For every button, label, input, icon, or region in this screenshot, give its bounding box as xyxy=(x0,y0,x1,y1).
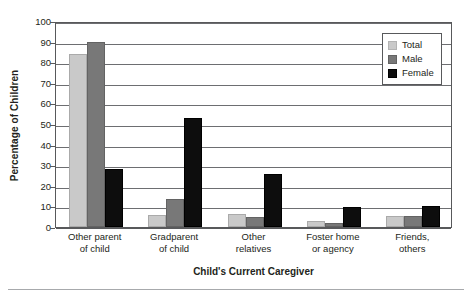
x-tick-label-line: Other parent xyxy=(68,231,121,242)
x-tick-label-line: of child xyxy=(134,243,213,255)
x-tick-label-line: or agency xyxy=(293,243,372,255)
y-tick-label-50: 50 xyxy=(24,120,51,130)
bar xyxy=(264,174,282,227)
y-tick-label-30: 30 xyxy=(24,161,51,171)
legend-item-male[interactable]: Male xyxy=(388,52,434,66)
x-tick-label-line: Foster home xyxy=(306,231,359,242)
legend-swatch-icon xyxy=(388,69,397,78)
x-tick-label-line: Friends, xyxy=(395,231,429,242)
bar xyxy=(166,199,184,227)
y-tick-label-0: 0 xyxy=(24,223,51,233)
bar xyxy=(343,207,361,227)
x-axis-title: Child's Current Caregiver xyxy=(55,266,452,277)
bar xyxy=(105,169,123,227)
x-tick-label: Gradparentof child xyxy=(134,231,213,254)
legend-item-female[interactable]: Female xyxy=(388,66,434,80)
x-tick-label-line: relatives xyxy=(214,243,293,255)
gridline-0 xyxy=(56,228,451,229)
bar xyxy=(386,216,404,227)
legend-label: Total xyxy=(402,40,422,50)
x-tick-label: Friends,others xyxy=(373,231,452,254)
x-tick-label-line: Gradparent xyxy=(150,231,198,242)
bar xyxy=(228,214,246,227)
bar xyxy=(87,42,105,227)
y-tick-label-20: 20 xyxy=(24,182,51,192)
x-tick-label-line: others xyxy=(373,243,452,255)
bar xyxy=(148,215,166,227)
x-tick-label: Foster homeor agency xyxy=(293,231,372,254)
y-tick-label-70: 70 xyxy=(24,79,51,89)
legend-swatch-icon xyxy=(388,41,397,50)
y-axis-title-text: Percentage of Children xyxy=(10,69,21,181)
x-axis-tick-labels: Other parentof childGradparentof childOt… xyxy=(55,231,452,263)
bar xyxy=(246,217,264,227)
y-tick-label-90: 90 xyxy=(24,38,51,48)
legend-swatch-icon xyxy=(388,55,397,64)
y-axis-title: Percentage of Children xyxy=(6,22,24,228)
legend-item-total[interactable]: Total xyxy=(388,38,434,52)
chart-legend: TotalMaleFemale xyxy=(382,33,442,85)
bar xyxy=(69,54,87,227)
bar xyxy=(307,221,325,227)
bar-group xyxy=(69,23,123,227)
y-tick-label-100: 100 xyxy=(24,17,51,27)
x-tick-label: Other parentof child xyxy=(55,231,134,254)
x-tick-label: Otherrelatives xyxy=(214,231,293,254)
x-tick-label-line: of child xyxy=(55,243,134,255)
x-tick-label-line: Other xyxy=(242,231,266,242)
y-tick-label-80: 80 xyxy=(24,58,51,68)
legend-label: Female xyxy=(402,68,434,78)
bar xyxy=(422,206,440,227)
bar xyxy=(404,216,422,227)
legend-label: Male xyxy=(402,54,423,64)
y-tick-mark-0 xyxy=(50,228,55,229)
bar-group xyxy=(228,23,282,227)
y-tick-label-10: 10 xyxy=(24,202,51,212)
bottom-divider xyxy=(8,289,464,290)
bar-chart-figure: Percentage of Children 10090807060504030… xyxy=(0,0,472,298)
bar-group xyxy=(148,23,202,227)
bar xyxy=(184,118,202,227)
y-tick-label-40: 40 xyxy=(24,141,51,151)
y-tick-label-60: 60 xyxy=(24,99,51,109)
bar xyxy=(325,223,343,227)
bar-group xyxy=(307,23,361,227)
y-axis-tick-labels: 1009080706050403020100 xyxy=(24,22,51,228)
